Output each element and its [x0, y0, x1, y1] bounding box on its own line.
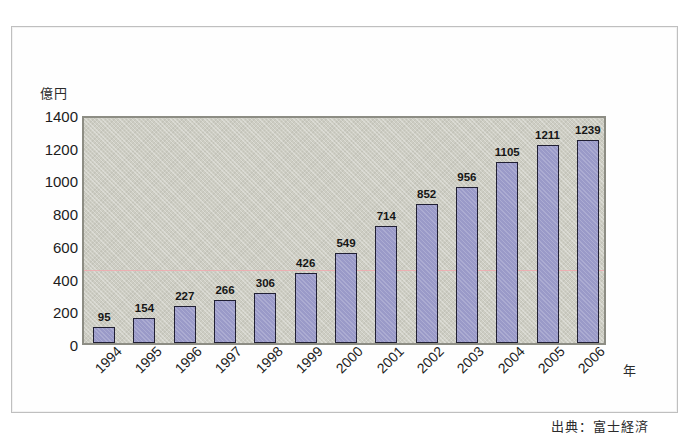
x-axis-tick: 2002: [405, 353, 445, 371]
x-axis-tick-text: 1994: [91, 343, 124, 376]
x-axis-tick-text: 1997: [212, 343, 245, 376]
bar-value-label: 227: [165, 290, 205, 302]
bar-slot: 266: [205, 118, 245, 343]
bar: [214, 300, 236, 344]
x-axis-tick: 1994: [82, 353, 122, 371]
x-axis-tick: 2006: [566, 353, 606, 371]
bar: [93, 327, 115, 343]
x-axis-tick-text: 1996: [172, 343, 205, 376]
bar-value-label: 714: [366, 210, 406, 222]
x-axis-tick-text: 2000: [333, 343, 366, 376]
x-axis-tick: 1996: [163, 353, 203, 371]
y-axis-tick: 1400: [32, 108, 78, 125]
y-axis-tick: 0: [32, 337, 78, 354]
bar-slot: 95: [84, 118, 124, 343]
bar-value-label: 1239: [568, 124, 608, 136]
bar: [456, 187, 478, 343]
bar: [375, 226, 397, 343]
bar-value-label: 426: [286, 257, 326, 269]
x-axis-tick: 1997: [203, 353, 243, 371]
bar-value-label: 1105: [487, 146, 527, 158]
x-axis-tick: 1995: [122, 353, 162, 371]
bar-value-label: 266: [205, 284, 245, 296]
x-axis-tick-text: 1998: [252, 343, 285, 376]
x-axis-tick-text: 1995: [131, 343, 164, 376]
bar-slot: 852: [407, 118, 447, 343]
bar-slot: 227: [165, 118, 205, 343]
x-axis-tick-text: 2002: [414, 343, 447, 376]
x-axis-tick-text: 1999: [293, 343, 326, 376]
x-axis-tick: 2004: [485, 353, 525, 371]
bar-slot: 1239: [568, 118, 608, 343]
y-axis-tick-labels: 1400120010008006004002000: [28, 116, 78, 345]
bar: [577, 140, 599, 343]
source-note: 出典：富士経済: [551, 416, 649, 435]
plot-area: 9515422726630642654971485295611051211123…: [82, 116, 606, 345]
y-axis-tick: 1000: [32, 173, 78, 190]
x-axis-tick: 1999: [284, 353, 324, 371]
bar-value-label: 95: [84, 311, 124, 323]
bar-slot: 154: [124, 118, 164, 343]
bar: [295, 273, 317, 343]
y-axis-unit-label: 億円: [40, 83, 67, 102]
bar: [496, 162, 518, 343]
bar: [335, 253, 357, 343]
x-axis-tick-text: 2001: [373, 343, 406, 376]
y-axis-tick: 600: [32, 238, 78, 255]
bar-slot: 1211: [528, 118, 568, 343]
bar-value-label: 956: [447, 171, 487, 183]
bar: [133, 318, 155, 343]
bar: [537, 145, 559, 343]
x-axis-tick: 2001: [364, 353, 404, 371]
bar-slot: 1105: [487, 118, 527, 343]
bar-value-label: 852: [407, 188, 447, 200]
bars-layer: 9515422726630642654971485295611051211123…: [84, 118, 604, 343]
bar-slot: 549: [326, 118, 366, 343]
x-axis-tick-text: 2005: [535, 343, 568, 376]
bar-slot: 306: [245, 118, 285, 343]
x-axis-tick-text: 2003: [454, 343, 487, 376]
y-axis-tick: 200: [32, 304, 78, 321]
bar-slot: 426: [286, 118, 326, 343]
bar-value-label: 306: [245, 277, 285, 289]
bar: [416, 204, 438, 343]
x-axis-tick: 1998: [243, 353, 283, 371]
y-axis-tick: 800: [32, 206, 78, 223]
bar-value-label: 1211: [528, 129, 568, 141]
x-axis-tick-labels: 1994199519961997199819992000200120022003…: [82, 345, 606, 415]
bar: [174, 306, 196, 343]
bar-slot: 956: [447, 118, 487, 343]
y-axis-tick: 400: [32, 271, 78, 288]
bar: [254, 293, 276, 343]
figure-frame: 億円 1400120010008006004002000 95154227266…: [11, 26, 678, 413]
x-axis-tick-text: 2004: [494, 343, 527, 376]
bar-slot: 714: [366, 118, 406, 343]
bar-value-label: 549: [326, 237, 366, 249]
x-axis-tick: 2003: [445, 353, 485, 371]
bar-value-label: 154: [124, 302, 164, 314]
x-axis-tick: 2000: [324, 353, 364, 371]
x-axis-title: 年: [623, 360, 636, 379]
x-axis-tick: 2005: [526, 353, 566, 371]
y-axis-tick: 1200: [32, 140, 78, 157]
x-axis-tick-text: 2006: [575, 343, 608, 376]
